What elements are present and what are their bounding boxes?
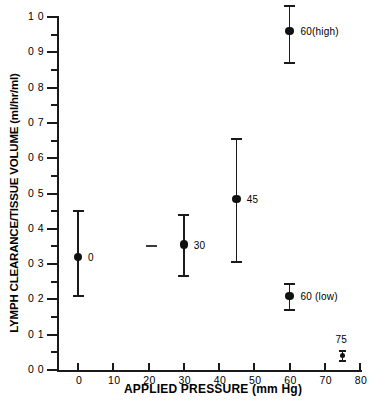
x-tick-label: 0	[64, 374, 94, 386]
data-point	[180, 240, 188, 248]
y-tick-major	[47, 51, 58, 53]
data-point	[340, 353, 345, 358]
x-tick-label: 20	[135, 374, 165, 386]
stray-dash-mark	[146, 245, 157, 247]
y-tick-label: 0 3	[14, 257, 44, 269]
x-tick-label: 60	[276, 374, 306, 386]
error-bar-cap-lower	[178, 275, 189, 277]
y-tick-label: 0 5	[14, 187, 44, 199]
x-tick-label: 30	[170, 374, 200, 386]
x-tick	[324, 363, 326, 372]
x-tick-label: 50	[240, 374, 270, 386]
y-tick-major	[47, 263, 58, 265]
data-point-label: 30	[194, 240, 206, 251]
y-tick-label: 0 6	[14, 151, 44, 163]
error-bar-cap-upper	[178, 214, 189, 216]
y-tick-label: 0 0	[14, 363, 44, 375]
y-tick-minor	[51, 281, 58, 283]
x-tick	[112, 363, 114, 372]
error-bar-cap-upper	[73, 210, 84, 212]
y-tick-minor	[51, 69, 58, 71]
y-tick-minor	[51, 245, 58, 247]
data-point-label: 45	[247, 194, 259, 205]
data-point	[232, 195, 240, 203]
x-tick	[289, 363, 291, 372]
y-tick-minor	[51, 351, 58, 353]
y-tick-minor	[51, 34, 58, 36]
y-tick-major	[47, 334, 58, 336]
data-point-label: 60(high)	[301, 26, 339, 37]
error-bar-cap-upper	[284, 283, 295, 285]
y-axis-title: LYMPH CLEARANCE/TISSUE VOLUME (ml/hr/ml)	[0, 0, 28, 406]
y-tick-minor	[51, 316, 58, 318]
error-bar-cap-lower	[284, 62, 295, 64]
x-tick-label: 40	[205, 374, 235, 386]
data-point-label: 60 (low)	[301, 291, 338, 302]
error-bar-cap-upper	[231, 138, 242, 140]
data-point	[74, 253, 82, 261]
error-bar-cap-lower	[339, 360, 346, 362]
y-tick-minor	[51, 210, 58, 212]
y-tick-minor	[51, 104, 58, 106]
x-tick	[253, 363, 255, 372]
data-point-label: 0	[88, 252, 94, 263]
y-tick-label: 0 7	[14, 116, 44, 128]
y-tick-label: 0 9	[14, 45, 44, 57]
y-tick-major	[47, 228, 58, 230]
x-tick	[77, 363, 79, 372]
x-tick	[148, 363, 150, 372]
x-tick-label: 10	[99, 374, 129, 386]
y-tick-minor	[51, 175, 58, 177]
data-point-label: 75	[335, 334, 347, 345]
y-tick-label: 0 8	[14, 81, 44, 93]
y-tick-major	[47, 87, 58, 89]
data-point	[285, 292, 293, 300]
x-tick	[218, 363, 220, 372]
x-tick	[359, 363, 361, 372]
y-tick-major	[47, 298, 58, 300]
x-axis-line	[57, 370, 362, 372]
y-tick-major	[47, 122, 58, 124]
error-bar-cap-lower	[284, 309, 295, 311]
error-bar-cap-lower	[231, 261, 242, 263]
y-tick-label: 0 4	[14, 222, 44, 234]
error-bar-cap-upper	[339, 350, 346, 352]
y-tick-major	[47, 193, 58, 195]
y-tick-label: 0 1	[14, 328, 44, 340]
data-point	[285, 27, 293, 35]
y-tick-major	[47, 369, 58, 371]
chart-figure: LYMPH CLEARANCE/TISSUE VOLUME (ml/hr/ml)…	[0, 0, 372, 406]
y-tick-minor	[51, 140, 58, 142]
error-bar-cap-upper	[284, 5, 295, 7]
error-bar-cap-lower	[73, 295, 84, 297]
x-tick-label: 80	[346, 374, 372, 386]
x-tick	[183, 363, 185, 372]
y-tick-major	[47, 16, 58, 18]
y-tick-major	[47, 157, 58, 159]
y-tick-label: 0 2	[14, 292, 44, 304]
x-tick-label: 70	[311, 374, 341, 386]
y-tick-label: 1 0	[14, 10, 44, 22]
